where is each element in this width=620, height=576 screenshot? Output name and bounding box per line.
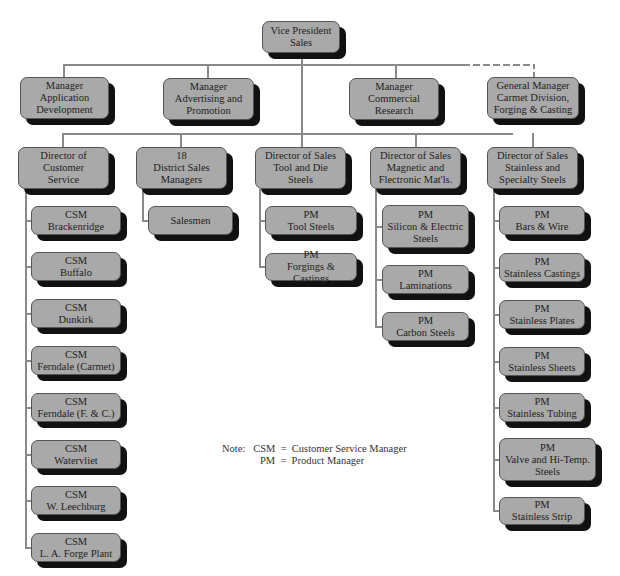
legend-note-csm: Note: CSM = Customer Service Manager [222,443,407,455]
director-director-of-sales-magnetic-and-flectronic-mat-ls-box: Director of Sales Magnetic and Flectroni… [370,147,461,189]
connector-line [63,64,463,66]
sub-pm-laminations-box: PM Laminations [382,265,469,294]
sub-csm-ferndale-carmet-box: CSM Ferndale (Carmet) [31,346,121,375]
staff-manager-application-development-box: Manager Application Development [20,77,109,119]
sub-pm-stainless-plates-box: PM Stainless Plates [499,300,585,329]
sub-pm-carbon-steels-box: PM Carbon Steels [382,312,469,341]
sub-pm-stainless-castings-box: PM Stainless Castings [499,253,585,282]
connector-line [62,133,64,147]
sub-csm-brackenridge-box: CSM Brackenridge [31,206,121,235]
connector-line [142,189,144,221]
sub-pm-bars-wire-box: PM Bars & Wire [499,206,585,235]
dotted-line-connector [463,64,535,66]
staff-manager-advertising-and-promotion-box: Manager Advertising and Promotion [163,78,254,120]
connector-line [62,133,513,135]
sub-pm-stainless-sheets-box: PM Stainless Sheets [499,347,585,376]
sub-pm-tool-steels-box: PM Tool Steels [265,206,357,235]
director-director-of-customer-service-box: Director of Customer Service [18,147,109,189]
sub-pm-stainless-tubing-box: PM Stainless Tubing [499,393,585,422]
sub-csm-ferndale-f-c-box: CSM Ferndale (F. & C.) [31,393,121,422]
director-director-of-sales-stainless-and-specialty-steels-box: Director of Sales Stainless and Specialt… [487,147,578,189]
staff-manager-commercial-research-box: Manager Commercial Research [349,78,439,120]
sub-salesmen-box: Salesmen [148,206,233,235]
connector-line [532,133,534,147]
director-director-of-sales-tool-and-die-steels-box: Director of Sales Tool and Die Steels [255,147,346,189]
connector-line [207,64,209,78]
connector-line [259,189,261,268]
sub-csm-w-leechburg-box: CSM W. Leechburg [31,486,121,515]
sub-csm-buffalo-box: CSM Buffalo [31,252,121,281]
dotted-line-connector [533,64,535,77]
sub-pm-stainless-strip-box: PM Stainless Strip [499,497,585,525]
connector-line [301,133,303,147]
legend-note-pm: PM = Product Manager [260,455,364,467]
connector-line [395,64,397,78]
sub-csm-watervliet-box: CSM Watervliet [31,440,121,469]
sub-pm-valve-and-hi-temp-steels-box: PM Valve and Hi-Temp. Steels [499,438,596,481]
staff-general-manager-carmet-division-forging-casting-box: General Manager Carmet Division, Forging… [487,77,579,119]
connector-line [493,189,495,511]
connector-line [415,133,417,147]
connector-line [375,189,377,327]
connector-line [63,64,65,78]
sub-csm-l-a-forge-plant-box: CSM L. A. Forge Plant [31,533,121,562]
org-chart: Vice President Sales Manager Application… [0,0,620,576]
connector-line [180,133,182,147]
connector-line [25,189,27,549]
sub-pm-silicon-electric-steels-box: PM Silicon & Electric Steels [382,205,469,248]
sub-csm-dunkirk-box: CSM Dunkirk [31,299,121,328]
sub-pm-forgings-castings-box: PM Forgings & Castings [265,253,357,281]
vice-president-sales-box: Vice President Sales [262,21,340,53]
director-18-district-sales-managers-box: 18 District Sales Managers [136,147,227,189]
